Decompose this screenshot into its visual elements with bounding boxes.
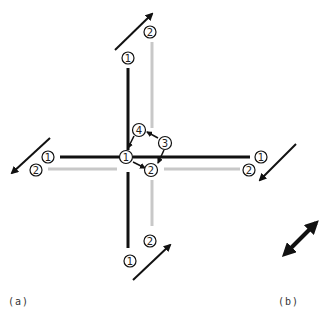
top-label-1: 1 [122, 52, 134, 64]
left-label-2: 2 [30, 164, 42, 176]
bottom-label-2: 2 [144, 235, 156, 247]
center-label-4: 4 [133, 124, 146, 137]
double-headed-arrow-icon [289, 223, 316, 250]
svg-text:1: 1 [45, 152, 51, 163]
svg-text:2: 2 [147, 27, 153, 38]
right-direction-arrow-icon [260, 144, 296, 180]
svg-text:2: 2 [147, 236, 153, 247]
bottom-label-1: 1 [124, 255, 136, 267]
svg-text:3: 3 [162, 138, 168, 149]
svg-text:2: 2 [148, 165, 154, 176]
svg-text:1: 1 [258, 152, 264, 163]
caption-b: (b) [278, 296, 299, 307]
svg-text:1: 1 [127, 256, 133, 267]
svg-text:1: 1 [125, 53, 131, 64]
bottom-direction-arrow-icon [133, 245, 170, 280]
circled-labels: 1 2 1 2 1 2 1 2 [30, 26, 267, 267]
center-label-3: 3 [159, 137, 172, 150]
center-label-2: 2 [145, 164, 158, 177]
left-label-1: 1 [42, 151, 54, 163]
center-cycle-arrows [128, 132, 164, 168]
cycle-arrow-3-to-4-icon [147, 132, 158, 138]
caption-a: (a) [8, 296, 29, 307]
center-label-1: 1 [120, 151, 133, 164]
svg-text:4: 4 [136, 125, 142, 136]
path-1-lines [60, 68, 250, 248]
svg-text:2: 2 [246, 165, 252, 176]
right-label-2: 2 [243, 164, 255, 176]
right-label-1: 1 [255, 151, 267, 163]
svg-text:2: 2 [33, 165, 39, 176]
svg-text:1: 1 [123, 152, 129, 163]
diagram-canvas: 1 2 1 2 1 2 1 2 [0, 0, 328, 322]
top-label-2: 2 [144, 26, 156, 38]
cycle-arrow-1-to-2-icon [133, 162, 145, 168]
